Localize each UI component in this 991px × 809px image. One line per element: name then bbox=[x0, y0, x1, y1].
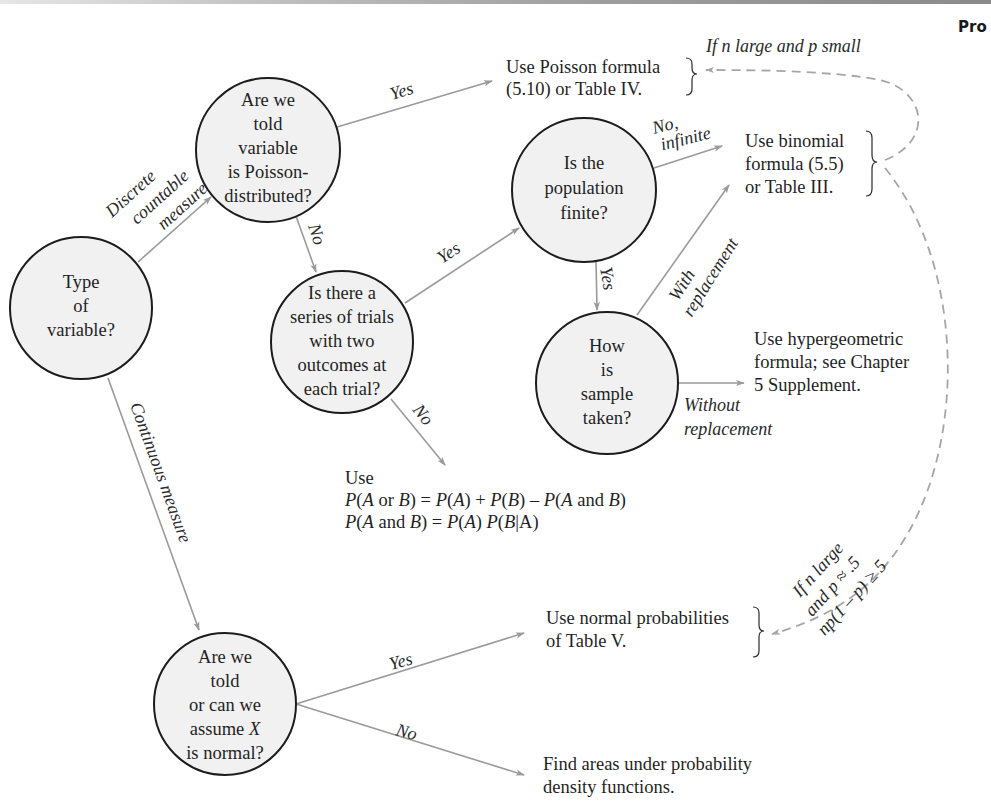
node-text-line: taken? bbox=[583, 408, 631, 428]
node-text-line: sample bbox=[581, 384, 633, 404]
node-text-line: outcomes at bbox=[298, 355, 388, 375]
node-text-line: Are we bbox=[198, 647, 252, 667]
outcome-binomial: Use binomial formula (5.5) or Table III. bbox=[745, 131, 844, 197]
formula-multiplication-rule: P(A and B) = P(A) P(B|A) bbox=[344, 512, 539, 533]
node-how-sample-taken: How is sample taken? bbox=[536, 312, 678, 454]
svg-text:Yes: Yes bbox=[387, 78, 415, 104]
outcome-text-line: of Table V. bbox=[546, 631, 626, 651]
brace-binomial bbox=[866, 131, 877, 196]
outcome-text-line: Find areas under probability bbox=[543, 754, 753, 774]
label-poisson-yes: Yes bbox=[387, 78, 415, 104]
edge-poisson-yes bbox=[337, 81, 492, 127]
node-text-line: is normal? bbox=[186, 743, 264, 763]
node-text-line: Is there a bbox=[308, 283, 376, 303]
outcome-text-line: Use binomial bbox=[745, 131, 844, 151]
label-discrete: Discrete countable measure bbox=[101, 146, 212, 255]
label-approx-poisson: If n large and p small bbox=[705, 36, 861, 56]
node-series-of-trials: Is there a series of trials with two out… bbox=[271, 271, 413, 413]
outcome-text-line: formula (5.5) bbox=[745, 154, 844, 175]
label-finite-no: No, infinite bbox=[649, 105, 713, 155]
node-text-line: told bbox=[254, 114, 284, 134]
svg-text:Yes: Yes bbox=[596, 265, 620, 291]
label-trials-yes: Yes bbox=[433, 238, 463, 267]
label-poisson-no: No bbox=[304, 220, 330, 247]
outcome-poisson: Use Poisson formula (5.10) or Table IV. bbox=[506, 57, 660, 100]
node-text-line: distributed? bbox=[224, 186, 311, 206]
node-text-line: of bbox=[73, 296, 89, 316]
brace-normal bbox=[753, 607, 764, 657]
node-text-line: is Poisson- bbox=[228, 162, 309, 182]
svg-text:replacement: replacement bbox=[684, 419, 773, 439]
edge-trials-yes bbox=[405, 228, 519, 303]
probability-decision-flowchart: Type of variable? Are we told variable i… bbox=[0, 0, 991, 809]
outcome-text-line: (5.10) or Table IV. bbox=[506, 79, 642, 100]
label-with-replacement: With replacement bbox=[661, 223, 742, 320]
outcome-text-line: Use Poisson formula bbox=[506, 57, 660, 77]
svg-text:Without: Without bbox=[684, 395, 741, 415]
outcome-text-line: density functions. bbox=[543, 777, 675, 797]
node-assume-normal: Are we told or can we assume X is normal… bbox=[154, 633, 296, 775]
node-text-line: Are we bbox=[241, 90, 295, 110]
svg-text:Yes: Yes bbox=[433, 238, 463, 267]
outcome-normal-table: Use normal probabilities of Table V. bbox=[546, 608, 729, 651]
svg-text:If n large and p small: If n large and p small bbox=[705, 36, 861, 56]
node-population-finite: Is the population finite? bbox=[512, 118, 656, 262]
node-text-line: population bbox=[544, 178, 623, 198]
outcome-density-areas: Find areas under probability density fun… bbox=[543, 754, 753, 797]
node-text-line: How bbox=[589, 336, 626, 356]
node-type-of-variable: Type of variable? bbox=[10, 237, 152, 379]
node-text-line: series of trials bbox=[290, 307, 394, 327]
node-text-line: Is the bbox=[564, 153, 605, 173]
svg-text:No: No bbox=[304, 220, 330, 247]
outcome-hypergeometric: Use hypergeometric formula; see Chapter … bbox=[754, 329, 909, 395]
node-text-line: is bbox=[601, 360, 613, 380]
brace-poisson bbox=[686, 58, 697, 95]
node-text-line: assume X bbox=[190, 719, 261, 739]
outcome-text-line: formula; see Chapter bbox=[754, 352, 909, 372]
outcome-text-line: 5 Supplement. bbox=[754, 375, 861, 395]
outcome-text-line: Use bbox=[345, 468, 374, 488]
node-text-line: each trial? bbox=[304, 379, 381, 399]
node-text-line: or can we bbox=[189, 695, 261, 715]
edge-continuous bbox=[108, 378, 199, 630]
outcome-text-line: Use hypergeometric bbox=[754, 329, 903, 349]
svg-text:Yes: Yes bbox=[387, 648, 415, 673]
label-approx-normal: If n large and p ≈ .5 np(1 – p) ≥ 5 bbox=[780, 526, 891, 639]
label-finite-yes: Yes bbox=[596, 265, 620, 291]
node-told-poisson: Are we told variable is Poisson- distrib… bbox=[196, 78, 340, 222]
outcome-general-rules: Use P(A or B) = P(A) + P(B) – P(A and B)… bbox=[344, 468, 626, 533]
node-text-line: finite? bbox=[560, 203, 607, 223]
node-text-line: variable? bbox=[47, 320, 115, 340]
outcome-text-line: or Table III. bbox=[745, 177, 833, 197]
outcome-text-line: Use normal probabilities bbox=[546, 608, 729, 628]
node-text-line: Type bbox=[63, 272, 100, 292]
label-without-replacement: Without replacement bbox=[684, 395, 773, 439]
node-text-line: variable bbox=[238, 138, 298, 158]
label-normal-yes: Yes bbox=[387, 648, 415, 673]
node-text-line: with two bbox=[309, 331, 374, 351]
formula-addition-rule: P(A or B) = P(A) + P(B) – P(A and B) bbox=[344, 490, 626, 511]
node-text-line: told bbox=[211, 671, 241, 691]
